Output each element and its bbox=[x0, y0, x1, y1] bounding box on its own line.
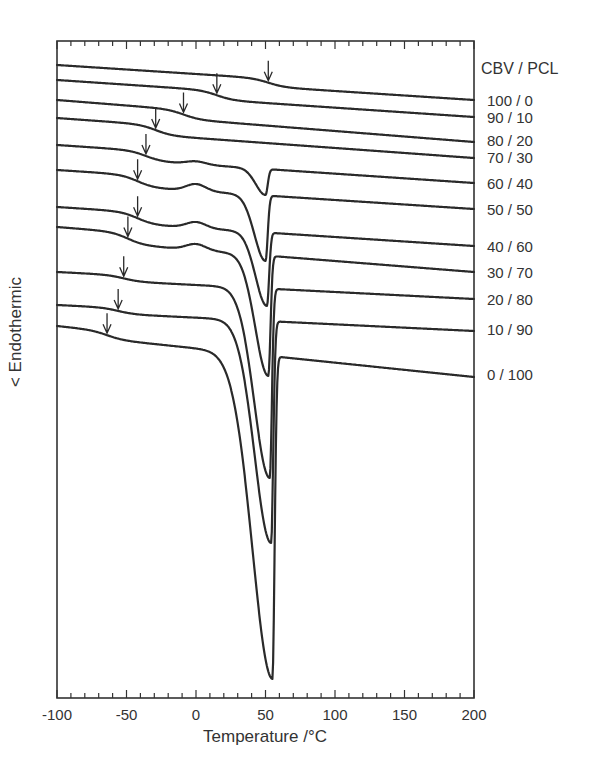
legend-item: 30 / 70 bbox=[487, 264, 533, 281]
dsc-curve bbox=[57, 227, 474, 376]
x-axis-label: Temperature /°C bbox=[203, 727, 327, 747]
dsc-curve bbox=[57, 80, 474, 117]
tg-arrow-icon bbox=[134, 196, 142, 216]
legend-item: 90 / 10 bbox=[487, 109, 533, 126]
x-tick-label: -50 bbox=[116, 706, 138, 723]
tg-arrow-icon bbox=[142, 134, 150, 154]
tg-arrow-icon bbox=[114, 289, 122, 309]
tg-arrow-icon bbox=[124, 217, 132, 237]
legend-item: 20 / 80 bbox=[487, 291, 533, 308]
x-tick-label: 50 bbox=[257, 706, 274, 723]
tg-arrow-icon bbox=[152, 108, 160, 128]
legend-item: 70 / 30 bbox=[487, 149, 533, 166]
dsc-curve bbox=[57, 170, 474, 261]
dsc-curve bbox=[57, 65, 474, 100]
y-axis-label: < Endothermic bbox=[0, 0, 28, 778]
legend-item: 10 / 90 bbox=[487, 321, 533, 338]
legend-item: 80 / 20 bbox=[487, 132, 533, 149]
legend-item: 60 / 40 bbox=[487, 175, 533, 192]
dsc-curve bbox=[57, 326, 474, 679]
legend-item: 40 / 60 bbox=[487, 238, 533, 255]
tg-arrow-icon bbox=[134, 159, 142, 179]
x-tick-label: 100 bbox=[322, 706, 347, 723]
legend-item: 0 / 100 bbox=[487, 366, 533, 383]
x-tick-label: 150 bbox=[392, 706, 417, 723]
tg-arrow-icon bbox=[103, 313, 111, 333]
dsc-curve bbox=[57, 305, 474, 543]
x-tick-label: -100 bbox=[42, 706, 72, 723]
tg-arrow-icon bbox=[120, 256, 128, 276]
x-tick-label: 200 bbox=[461, 706, 486, 723]
tg-arrow-icon bbox=[179, 93, 187, 113]
tg-arrow-icon bbox=[264, 61, 272, 81]
legend-title: CBV / PCL bbox=[481, 60, 558, 78]
legend-item: 100 / 0 bbox=[487, 92, 533, 109]
dsc-curve bbox=[57, 100, 474, 142]
x-tick-label: 0 bbox=[192, 706, 200, 723]
legend-item: 50 / 50 bbox=[487, 201, 533, 218]
dsc-curves bbox=[57, 65, 474, 679]
